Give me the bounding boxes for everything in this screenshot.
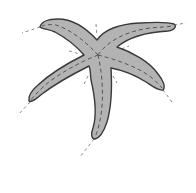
center-tick-lowleft [84, 76, 88, 84]
symmetry-line-bottom [80, 139, 94, 157]
symmetry-line-upper-left [22, 27, 40, 33]
center-tick-left [69, 51, 80, 54]
center-tick-lowright [113, 76, 117, 83]
symmetry-line-right [163, 90, 172, 102]
symmetry-line-upper-right [174, 23, 186, 25]
starfish-illustration [0, 0, 196, 193]
starfish-diagram: starfish [0, 0, 196, 193]
center-tick-top [96, 24, 97, 36]
symmetry-line-left [18, 102, 30, 115]
